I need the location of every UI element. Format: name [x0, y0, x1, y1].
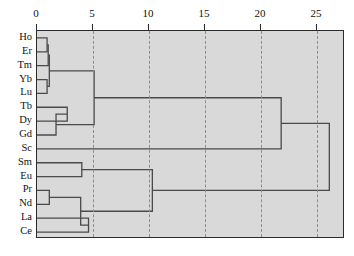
- x-axis-tick-label: 0: [33, 8, 39, 19]
- x-axis-tick-label: 10: [143, 8, 154, 19]
- leaf-label-column: HoErTmYbLuTbDyGdScSmEuPrNdLaCe: [0, 30, 36, 238]
- leaf-label-sm: Sm: [18, 156, 32, 167]
- x-axis-tick-label: 5: [89, 8, 95, 19]
- dendrogram-link-m8: [37, 190, 49, 204]
- leaf-label-dy: Dy: [19, 115, 32, 126]
- leaf-label-gd: Gd: [19, 129, 32, 140]
- dendrogram-link-m12: [81, 170, 153, 212]
- dendrogram-link-m3: [37, 80, 47, 94]
- leaf-label-la: La: [21, 212, 32, 223]
- leaf-label-sc: Sc: [22, 143, 33, 154]
- plot-inner: [37, 31, 343, 237]
- leaf-label-pr: Pr: [23, 184, 32, 195]
- leaf-label-er: Er: [22, 46, 32, 57]
- x-axis-tick-label: 15: [199, 8, 210, 19]
- dendrogram-link-m11: [37, 163, 82, 177]
- dendrogram-link-m13: [37, 98, 281, 149]
- dendrogram-link-m1: [37, 38, 47, 52]
- x-axis-tick-label: 25: [311, 8, 322, 19]
- leaf-label-lu: Lu: [20, 87, 32, 98]
- x-axis-tick-label: 20: [255, 8, 266, 19]
- leaf-label-nd: Nd: [19, 198, 32, 209]
- leaf-label-ho: Ho: [19, 32, 32, 43]
- x-axis: 0510152025: [0, 0, 354, 30]
- dendrogram-tree: [37, 31, 345, 239]
- plot-area: [36, 30, 344, 238]
- leaf-label-yb: Yb: [19, 73, 32, 84]
- leaf-label-eu: Eu: [20, 170, 32, 181]
- leaf-label-ce: Ce: [20, 226, 32, 237]
- leaf-label-tb: Tb: [20, 101, 32, 112]
- dendrogram-link-m14: [152, 123, 329, 190]
- leaf-label-tm: Tm: [17, 59, 32, 70]
- dendrogram-figure: 0510152025 HoErTmYbLuTbDyGdScSmEuPrNdLaC…: [0, 0, 354, 256]
